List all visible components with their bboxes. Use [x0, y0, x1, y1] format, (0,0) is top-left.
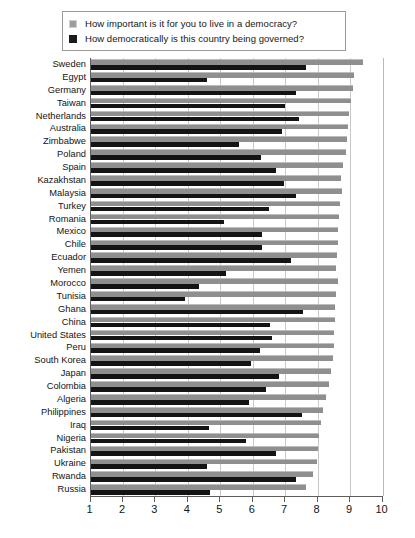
bar-governance: [91, 348, 261, 353]
bar-governance: [91, 258, 292, 263]
bar-row: [91, 71, 383, 84]
bar-row: [91, 483, 383, 496]
bar-importance: [91, 85, 353, 91]
value-axis: 12345678910: [90, 497, 382, 527]
bar-row: [91, 470, 383, 483]
bar-importance: [91, 368, 332, 374]
bar-governance: [91, 155, 261, 160]
axis-tick-1: [90, 497, 91, 502]
category-label: Ukraine: [0, 457, 86, 470]
axis-tick-label: 5: [204, 503, 234, 515]
bar-importance: [91, 446, 318, 452]
axis-tick-7: [284, 497, 285, 502]
bar-row: [91, 135, 383, 148]
category-label: China: [0, 316, 86, 329]
bar-importance: [91, 394, 326, 400]
bar-governance: [91, 91, 297, 96]
legend-swatch-black-square-icon: [69, 35, 77, 43]
bar-importance: [91, 149, 346, 155]
bar-governance: [91, 129, 282, 134]
axis-tick-label: 7: [269, 503, 299, 515]
category-label: Tunisia: [0, 290, 86, 303]
axis-tick-4: [187, 497, 188, 502]
plot-area: [90, 58, 383, 497]
bar-importance: [91, 188, 343, 194]
bar-importance: [91, 124, 348, 130]
bar-importance: [91, 433, 319, 439]
bar-governance: [91, 284, 200, 289]
bar-importance: [91, 136, 347, 142]
axis-tick-label: 8: [302, 503, 332, 515]
bar-row: [91, 238, 383, 251]
category-label: Malaysia: [0, 187, 86, 200]
category-label: Nigeria: [0, 432, 86, 445]
bar-importance: [91, 59, 364, 65]
bar-governance: [91, 168, 276, 173]
bar-row: [91, 303, 383, 316]
bar-row: [91, 444, 383, 457]
bar-importance: [91, 227, 338, 233]
legend-swatch-light-gray-square-icon: [69, 20, 77, 28]
category-label: Poland: [0, 148, 86, 161]
bar-row: [91, 251, 383, 264]
bar-importance: [91, 72, 355, 78]
bar-governance: [91, 78, 208, 83]
axis-tick-label: 1: [75, 503, 105, 515]
bar-row: [91, 367, 383, 380]
axis-tick-label: 6: [237, 503, 267, 515]
bar-row: [91, 354, 383, 367]
bar-governance: [91, 387, 266, 392]
chart-legend: How important is it for you to live in a…: [62, 11, 346, 51]
category-label: South Korea: [0, 354, 86, 367]
category-label: Netherlands: [0, 110, 86, 123]
axis-tick-2: [122, 497, 123, 502]
bar-governance: [91, 439, 246, 444]
bar-governance: [91, 232, 263, 237]
category-label: Algeria: [0, 393, 86, 406]
category-label: Turkey: [0, 200, 86, 213]
gridline-10: [383, 58, 384, 496]
bar-governance: [91, 323, 270, 328]
category-label: Egypt: [0, 71, 86, 84]
category-axis-labels: SwedenEgyptGermanyTaiwanNetherlandsAustr…: [0, 58, 86, 496]
category-label: Sweden: [0, 58, 86, 71]
category-label: Mexico: [0, 225, 86, 238]
axis-tick-8: [317, 497, 318, 502]
bar-governance: [91, 181, 285, 186]
bar-governance: [91, 310, 304, 315]
category-label: Yemen: [0, 264, 86, 277]
bar-importance: [91, 175, 341, 181]
legend-item-importance: How important is it for you to live in a…: [69, 16, 339, 31]
bar-importance: [91, 484, 307, 490]
bar-row: [91, 277, 383, 290]
axis-tick-5: [219, 497, 220, 502]
bar-importance: [91, 265, 337, 271]
bar-governance: [91, 426, 209, 431]
bar-governance: [91, 297, 186, 302]
category-label: Spain: [0, 161, 86, 174]
bar-importance: [91, 240, 338, 246]
bar-governance: [91, 451, 276, 456]
bar-row: [91, 329, 383, 342]
category-label: Japan: [0, 367, 86, 380]
bar-importance: [91, 98, 352, 104]
bar-row: [91, 406, 383, 419]
category-label: Russia: [0, 483, 86, 496]
bar-importance: [91, 291, 337, 297]
category-label: Ecuador: [0, 251, 86, 264]
bar-row: [91, 290, 383, 303]
bar-governance: [91, 413, 303, 418]
bar-rows: [91, 58, 383, 496]
bar-governance: [91, 207, 269, 212]
bar-importance: [91, 111, 350, 117]
bar-governance: [91, 117, 300, 122]
bar-row: [91, 393, 383, 406]
bar-row: [91, 110, 383, 123]
bar-row: [91, 264, 383, 277]
bar-row: [91, 58, 383, 71]
bar-governance: [91, 477, 296, 482]
bar-governance: [91, 490, 210, 495]
bar-governance: [91, 194, 296, 199]
bar-governance: [91, 374, 279, 379]
bar-row: [91, 200, 383, 213]
